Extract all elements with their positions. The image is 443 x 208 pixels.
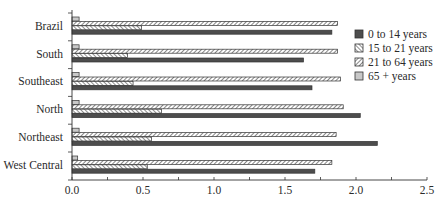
x-tick-label: 2.5	[420, 184, 435, 196]
plot-area	[72, 17, 377, 173]
bar	[72, 77, 340, 81]
bar-group	[72, 73, 340, 90]
bar	[72, 21, 338, 25]
category-label: Brazil	[35, 20, 63, 32]
x-tick-label: 1.0	[207, 184, 222, 196]
category-label: West Central	[4, 159, 63, 171]
bar	[72, 45, 79, 49]
x-tick-label: 2.0	[349, 184, 364, 196]
legend-label: 15 to 21 years	[368, 42, 433, 55]
bar-group	[72, 45, 338, 62]
legend-label: 0 to 14 years	[368, 28, 428, 41]
bar	[72, 54, 127, 58]
bar	[72, 165, 147, 169]
legend: 0 to 14 years15 to 21 years21 to 64 year…	[355, 28, 433, 83]
y-axis: BrazilSouthSoutheastNorthNortheastWest C…	[4, 10, 72, 180]
bar	[72, 81, 133, 85]
bar	[72, 49, 338, 53]
legend-swatch	[355, 72, 363, 80]
bar	[72, 100, 79, 104]
x-tick-label: 0.0	[65, 184, 80, 196]
bar	[72, 30, 332, 34]
bar	[72, 109, 161, 113]
x-axis: 0.00.51.01.52.02.5	[65, 177, 435, 196]
bar-group	[72, 128, 377, 145]
legend-swatch	[355, 44, 363, 52]
bar	[72, 169, 315, 173]
legend-label: 21 to 64 years	[368, 56, 433, 69]
bar	[72, 26, 142, 30]
bar	[72, 133, 336, 137]
category-label: North	[36, 103, 63, 115]
bar	[72, 128, 79, 132]
legend-swatch	[355, 58, 363, 66]
bar	[72, 156, 78, 160]
category-label: Southeast	[18, 75, 64, 87]
bar-chart: 0.00.51.01.52.02.5 BrazilSouthSoutheastN…	[0, 0, 443, 208]
bar	[72, 141, 377, 145]
category-label: Northeast	[18, 131, 64, 143]
category-label: South	[36, 48, 63, 60]
bar	[72, 160, 332, 164]
bar	[72, 17, 79, 21]
bar	[72, 86, 312, 90]
bar	[72, 137, 152, 141]
legend-swatch	[355, 30, 363, 38]
x-tick-label: 0.5	[136, 184, 151, 196]
legend-label: 65 + years	[368, 70, 417, 83]
bar	[72, 105, 343, 109]
bar-group	[72, 100, 360, 117]
bar	[72, 114, 360, 118]
bar	[72, 73, 79, 77]
bar-group	[72, 156, 332, 173]
x-tick-label: 1.5	[278, 184, 293, 196]
bar	[72, 58, 303, 62]
bar-group	[72, 17, 338, 34]
